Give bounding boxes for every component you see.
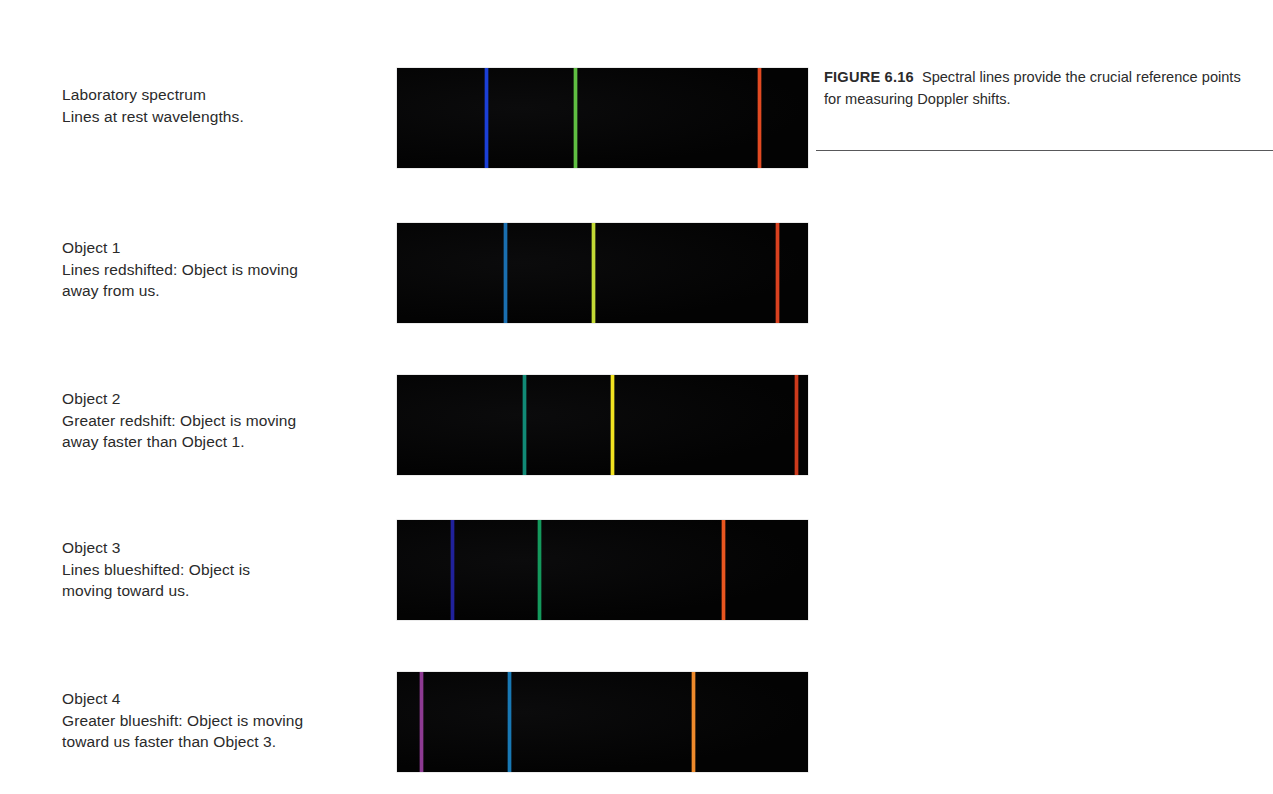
spectral-line-2: [610, 375, 615, 475]
spectral-line-1: [419, 672, 424, 772]
row-title: Object 4: [62, 688, 392, 710]
row-label-object-4: Object 4 Greater blueshift: Object is mo…: [62, 688, 392, 753]
row-description: Lines at rest wavelengths.: [62, 106, 392, 128]
spectral-line-2: [507, 672, 512, 772]
spectral-line-1: [503, 223, 508, 323]
row-label-object-2: Object 2 Greater redshift: Object is mov…: [62, 388, 392, 453]
row-description: Lines redshifted: Object is moving away …: [62, 259, 392, 302]
spectral-line-1: [450, 520, 455, 620]
caption-divider: [816, 150, 1273, 151]
strip-background: [397, 68, 808, 168]
figure-number: FIGURE 6.16: [824, 69, 914, 85]
spectrum-strip-laboratory: [397, 68, 808, 168]
spectral-line-2: [573, 68, 578, 168]
spectral-line-3: [775, 223, 780, 323]
row-description: Greater redshift: Object is moving away …: [62, 410, 392, 453]
spectrum-strip-object-4: [397, 672, 808, 772]
row-label-object-1: Object 1 Lines redshifted: Object is mov…: [62, 237, 392, 302]
spectrum-strip-object-1: [397, 223, 808, 323]
spectrum-strip-object-3: [397, 520, 808, 620]
row-description: Lines blueshifted: Object is moving towa…: [62, 559, 392, 602]
spectral-line-3: [757, 68, 762, 168]
figure-caption: FIGURE 6.16 Spectral lines provide the c…: [824, 66, 1254, 110]
strip-background: [397, 672, 808, 772]
spectral-line-3: [721, 520, 726, 620]
row-title: Object 3: [62, 537, 392, 559]
spectral-line-1: [522, 375, 527, 475]
strip-background: [397, 223, 808, 323]
row-title: Object 1: [62, 237, 392, 259]
spectral-line-3: [794, 375, 799, 475]
spectral-line-2: [591, 223, 596, 323]
row-title: Object 2: [62, 388, 392, 410]
strip-background: [397, 375, 808, 475]
spectral-line-3: [691, 672, 696, 772]
row-label-laboratory-spectrum: Laboratory spectrum Lines at rest wavele…: [62, 84, 392, 127]
row-label-object-3: Object 3 Lines blueshifted: Object is mo…: [62, 537, 392, 602]
spectrum-strip-object-2: [397, 375, 808, 475]
spectral-line-2: [537, 520, 542, 620]
row-description: Greater blueshift: Object is moving towa…: [62, 710, 392, 753]
spectral-line-1: [484, 68, 489, 168]
strip-background: [397, 520, 808, 620]
figure-6-16: Laboratory spectrum Lines at rest wavele…: [0, 0, 1273, 794]
row-title: Laboratory spectrum: [62, 84, 392, 106]
